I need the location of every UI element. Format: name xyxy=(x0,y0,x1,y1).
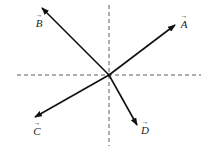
origin-point xyxy=(108,74,111,77)
vector-a-arrow xyxy=(109,25,175,75)
vector-d-arrow xyxy=(109,75,137,125)
vector-b-label: → B xyxy=(33,13,45,29)
vector-d-label: → D xyxy=(139,120,151,136)
vector-c-label: → C xyxy=(31,121,43,137)
vector-a-label: → A xyxy=(178,14,190,30)
vector-b-letter: B xyxy=(36,17,43,29)
vector-d-letter: D xyxy=(141,124,149,136)
vector-c-arrow xyxy=(35,75,109,117)
vector-a-letter: A xyxy=(181,18,188,30)
vector-c-letter: C xyxy=(33,125,40,137)
vector-b-arrow xyxy=(42,8,109,75)
